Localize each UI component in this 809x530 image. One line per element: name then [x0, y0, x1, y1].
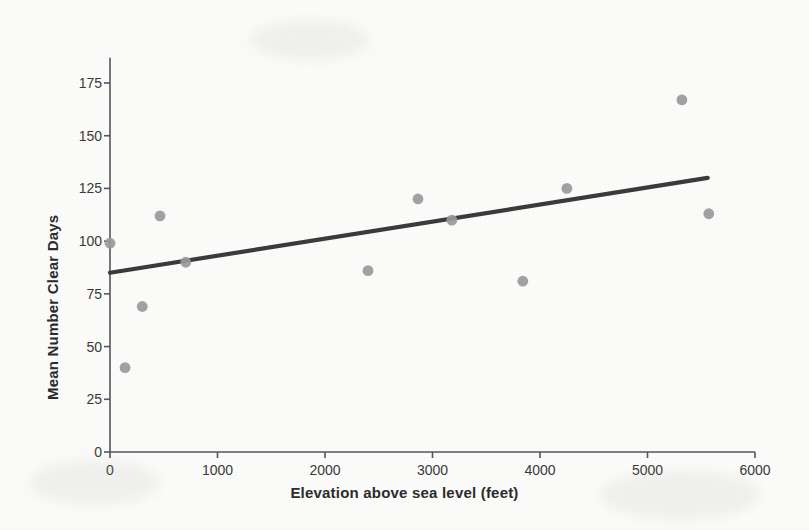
- y-tick-label: 50: [58, 339, 102, 355]
- y-tick-label: 25: [58, 391, 102, 407]
- data-point: [137, 301, 148, 312]
- x-tick-label: 0: [106, 462, 114, 478]
- data-point: [155, 210, 166, 221]
- x-tick-label: 2000: [309, 462, 340, 478]
- data-point: [703, 208, 714, 219]
- data-point: [180, 257, 191, 268]
- data-point: [120, 362, 131, 373]
- data-point: [561, 183, 572, 194]
- plot-canvas: [0, 0, 809, 530]
- scatter-plot-figure: 0255075100125150175 01000200030004000500…: [0, 0, 809, 530]
- trend-line: [110, 178, 708, 273]
- regression-line: [110, 178, 708, 273]
- x-tick-label: 5000: [632, 462, 663, 478]
- data-point: [413, 194, 424, 205]
- data-point: [677, 94, 688, 105]
- data-point: [363, 265, 374, 276]
- data-point: [446, 215, 457, 226]
- x-tick-label: 3000: [417, 462, 448, 478]
- y-tick-label: 150: [58, 128, 102, 144]
- data-points: [105, 94, 715, 373]
- y-tick-label: 0: [58, 444, 102, 460]
- x-tick-label: 4000: [524, 462, 555, 478]
- data-point: [517, 276, 528, 287]
- y-tick-label: 125: [58, 180, 102, 196]
- x-axis-title: Elevation above sea level (feet): [0, 484, 809, 501]
- y-tick-label: 75: [58, 286, 102, 302]
- x-tick-label: 6000: [739, 462, 770, 478]
- y-tick-label: 100: [58, 233, 102, 249]
- x-tick-label: 1000: [202, 462, 233, 478]
- y-axis-title: Mean Number Clear Days: [44, 215, 61, 400]
- y-tick-label: 175: [58, 75, 102, 91]
- data-point: [105, 238, 116, 249]
